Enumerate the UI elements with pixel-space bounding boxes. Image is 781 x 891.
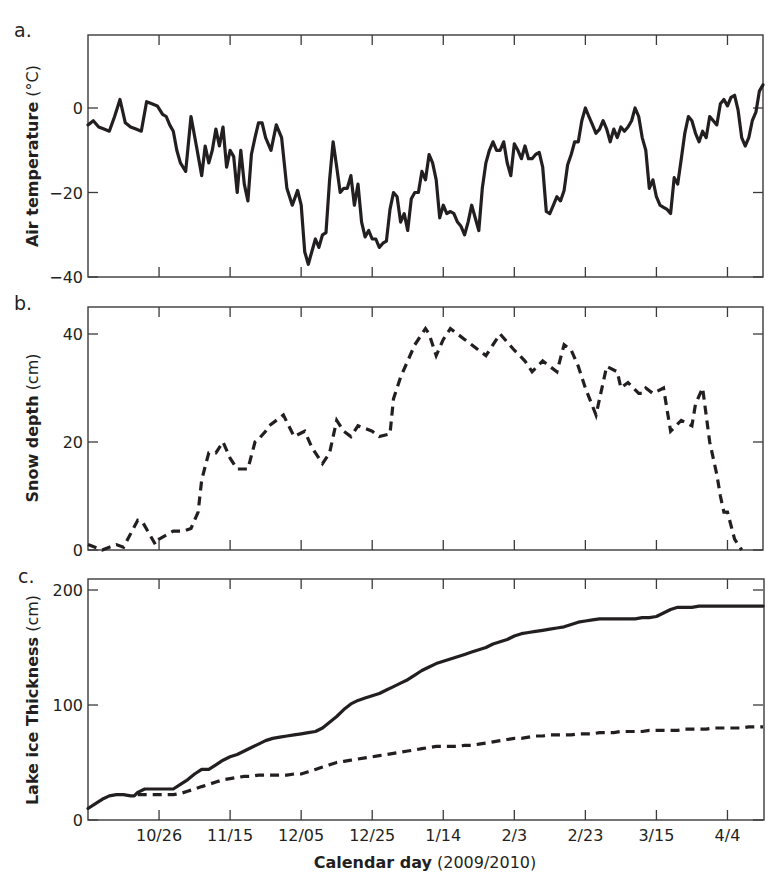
panel-b-series	[88, 329, 742, 550]
panel-a-letter: a.	[14, 19, 32, 41]
panel-c-x-ticks	[159, 579, 727, 820]
y-tick-label: 40	[63, 325, 83, 344]
x-tick-label: 3/15	[638, 826, 674, 845]
x-tick-label: 2/23	[567, 826, 603, 845]
figure: a. 0−20−40 Air temperature (°C) b. 02040…	[0, 0, 781, 891]
dashed-line-series	[138, 727, 763, 795]
x-tick-label: 1/14	[425, 826, 461, 845]
y-tick-label: 100	[52, 696, 83, 715]
x-tick-label: 10/26	[136, 826, 182, 845]
dashed-line-series	[88, 329, 742, 550]
panel-b-y-ticks: 02040	[63, 325, 763, 560]
panel-c-letter: c.	[18, 565, 35, 587]
panel-c-series	[88, 606, 763, 808]
panel-c-y-axis-label: Lake ice Thickness (cm)	[23, 595, 42, 805]
panel-a: a. 0−20−40 Air temperature (°C)	[14, 19, 763, 287]
x-tick-label: 11/15	[207, 826, 253, 845]
panel-c-y-ticks: 0100200	[52, 581, 763, 830]
y-tick-label: 0	[73, 541, 83, 560]
panel-b-letter: b.	[14, 292, 32, 314]
panel-b: b. 02040 Snow depth (cm)	[14, 292, 763, 560]
x-tick-label: 12/25	[349, 826, 395, 845]
panel-b-frame	[88, 307, 763, 550]
y-tick-label: 20	[63, 433, 83, 452]
y-tick-label: −20	[49, 184, 83, 203]
y-tick-label: −40	[49, 268, 83, 287]
x-tick-label: 12/05	[278, 826, 324, 845]
y-tick-label: 0	[73, 99, 83, 118]
y-tick-label: 0	[73, 811, 83, 830]
panel-a-y-axis-label: Air temperature (°C)	[23, 65, 42, 247]
panel-b-y-axis-label: Snow depth (cm)	[23, 353, 42, 502]
panel-a-frame	[88, 35, 763, 277]
x-tick-label: 4/4	[715, 826, 741, 845]
solid-line-series	[88, 606, 763, 808]
panel-c: c. 0100200 Lake ice Thickness (cm) 10/26…	[18, 565, 764, 845]
panel-a-series	[88, 85, 763, 264]
y-tick-label: 200	[52, 581, 83, 600]
solid-line-series	[88, 85, 763, 264]
panel-a-x-ticks	[159, 35, 727, 277]
x-axis-label: Calendar day (2009/2010)	[314, 853, 537, 872]
x-tick-labels: 10/2611/1512/0512/251/142/32/233/154/4	[136, 826, 740, 845]
x-tick-label: 2/3	[501, 826, 527, 845]
